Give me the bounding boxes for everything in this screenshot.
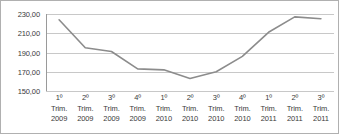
x-tick-label: 3º Trim. 2011 <box>308 93 334 133</box>
x-tick-quarter: 4º <box>229 93 255 104</box>
x-tick-quarter: 1º <box>46 93 72 104</box>
y-tick-label: 170,00 <box>18 67 40 76</box>
x-tick-year: 2011 <box>256 114 282 125</box>
x-tick-period: Trim. <box>203 104 229 115</box>
x-tick-label: 2º Trim. 2009 <box>72 93 98 133</box>
x-tick-quarter: 3º <box>98 93 124 104</box>
x-tick-quarter: 3º <box>203 93 229 104</box>
y-tick-label: 230,00 <box>18 10 40 19</box>
x-tick-quarter: 4º <box>125 93 151 104</box>
series-line-chart <box>46 14 334 91</box>
x-tick-period: Trim. <box>308 104 334 115</box>
x-tick-period: Trim. <box>256 104 282 115</box>
x-tick-year: 2009 <box>125 114 151 125</box>
x-tick-year: 2009 <box>72 114 98 125</box>
x-tick-quarter: 2º <box>282 93 308 104</box>
x-tick-year: 2010 <box>229 114 255 125</box>
x-tick-year: 2011 <box>308 114 334 125</box>
x-tick-label: 1º Trim. 2009 <box>46 93 72 133</box>
x-tick-period: Trim. <box>46 104 72 115</box>
x-tick-quarter: 3º <box>308 93 334 104</box>
x-tick-period: Trim. <box>72 104 98 115</box>
x-tick-label: 4º Trim. 2009 <box>125 93 151 133</box>
gridline <box>46 91 334 92</box>
x-tick-year: 2010 <box>151 114 177 125</box>
x-tick-label: 1º Trim. 2010 <box>151 93 177 133</box>
y-axis: 230,00 210,00 190,00 170,00 150,00 <box>1 14 43 91</box>
x-tick-label: 3º Trim. 2009 <box>98 93 124 133</box>
x-tick-year: 2009 <box>46 114 72 125</box>
x-tick-quarter: 1º <box>256 93 282 104</box>
x-tick-year: 2010 <box>177 114 203 125</box>
y-tick-label: 190,00 <box>18 48 40 57</box>
x-tick-label: 3º Trim. 2010 <box>203 93 229 133</box>
x-tick-year: 2010 <box>203 114 229 125</box>
x-tick-label: 2º Trim. 2011 <box>282 93 308 133</box>
x-tick-label: 4º Trim. 2010 <box>229 93 255 133</box>
x-tick-year: 2009 <box>98 114 124 125</box>
x-tick-period: Trim. <box>98 104 124 115</box>
x-tick-year: 2011 <box>282 114 308 125</box>
x-tick-period: Trim. <box>125 104 151 115</box>
plot-area <box>46 14 334 91</box>
series-polyline <box>59 17 321 79</box>
x-tick-period: Trim. <box>177 104 203 115</box>
x-tick-period: Trim. <box>282 104 308 115</box>
x-tick-period: Trim. <box>229 104 255 115</box>
y-tick-label: 210,00 <box>18 29 40 38</box>
x-axis: 1º Trim. 2009 2º Trim. 2009 3º Trim. 200… <box>46 93 334 133</box>
x-tick-period: Trim. <box>151 104 177 115</box>
x-tick-label: 1º Trim. 2011 <box>256 93 282 133</box>
x-tick-quarter: 2º <box>177 93 203 104</box>
x-tick-quarter: 2º <box>72 93 98 104</box>
x-tick-label: 2º Trim. 2010 <box>177 93 203 133</box>
y-tick-label: 150,00 <box>18 87 40 96</box>
line-chart-figure: 230,00 210,00 190,00 170,00 150,00 1º Tr… <box>0 0 339 134</box>
x-tick-quarter: 1º <box>151 93 177 104</box>
